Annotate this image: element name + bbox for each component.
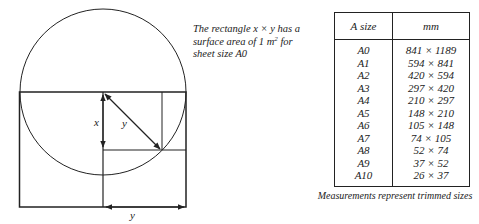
table-row: A0841 × 1189 [335,40,470,57]
caption-line-2: surface area of 1 m2 for [193,36,333,49]
table-row: A4210 × 297 [335,94,470,107]
table-row: A1026 × 37 [335,169,470,186]
caption-line-3: sheet size A0 [193,48,333,61]
table-row: A6105 × 148 [335,119,470,132]
table-row: A852 × 74 [335,144,470,157]
table-row: A3297 × 420 [335,82,470,95]
y-bottom-label: y [129,209,135,221]
table-row: A1594 × 841 [335,57,470,70]
x-label: x [93,116,99,128]
table-row: A2420 × 594 [335,69,470,82]
table-row: A774 × 105 [335,132,470,145]
y-diagonal-label: y [121,117,127,129]
y-diagonal-arrow [105,94,160,149]
header-a-size: A size [335,13,393,40]
table-row: A5148 × 210 [335,107,470,120]
table-footnote: Measurements represent trimmed sizes [311,190,479,201]
caption-line-1: The rectangle x × y has a [193,23,333,36]
table-row: A937 × 52 [335,157,470,170]
diagram-caption: The rectangle x × y has a surface area o… [193,23,333,61]
header-mm: mm [393,13,470,40]
a-size-table: A size mm A0841 × 1189 A1594 × 841 A2420… [334,12,470,187]
